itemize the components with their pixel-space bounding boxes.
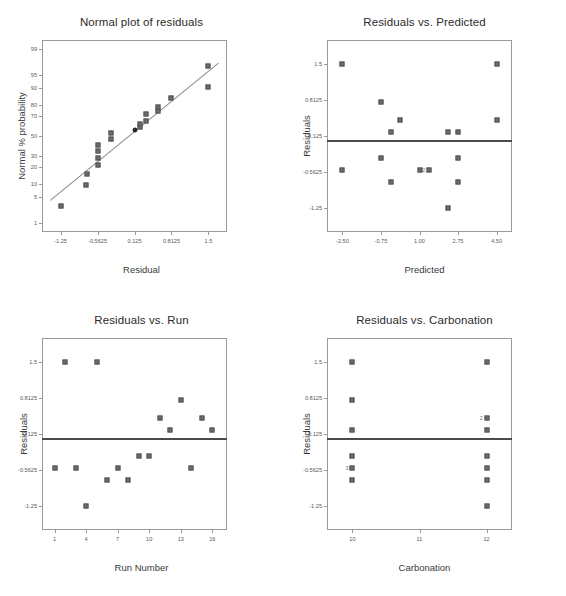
y-tick-label: 99 <box>12 46 37 52</box>
y-tick-label: -0.5625 <box>12 467 37 473</box>
x-tickmark <box>458 232 459 235</box>
data-point <box>63 360 68 365</box>
y-tick-label: 1.5 <box>297 359 322 365</box>
data-point <box>456 155 461 160</box>
y-tickmark <box>39 75 42 76</box>
y-axis-title-residuals-vs-run: Residuals <box>18 413 29 455</box>
x-tick-label: 0.125 <box>128 238 142 244</box>
y-tickmark <box>39 223 42 224</box>
y-tickmark <box>324 100 327 101</box>
data-point <box>484 477 489 482</box>
data-point <box>340 168 345 173</box>
data-point <box>95 142 100 147</box>
x-tick-label: 12 <box>483 536 489 542</box>
data-point <box>126 477 131 482</box>
chart-title-residuals-vs-run: Residuals vs. Run <box>0 314 283 326</box>
data-point <box>189 466 194 471</box>
y-tickmark <box>39 470 42 471</box>
y-tick-label: 1 <box>12 220 37 226</box>
data-point <box>136 453 141 458</box>
x-tick-label: 1 <box>53 536 56 542</box>
x-tickmark <box>212 530 213 533</box>
x-tick-label: 1.00 <box>414 238 425 244</box>
chart-panel-residuals-vs-predicted: Residuals vs. Predicted-2.50-0.751.002.7… <box>283 0 566 298</box>
data-point <box>199 415 204 420</box>
x-tickmark <box>497 232 498 235</box>
data-point <box>484 503 489 508</box>
data-point <box>178 398 183 403</box>
x-tickmark <box>420 232 421 235</box>
x-axis-title-residuals-vs-carbonation: Carbonation <box>283 562 566 573</box>
data-point <box>85 171 90 176</box>
y-tickmark <box>39 116 42 117</box>
x-tick-label: -0.5625 <box>88 238 107 244</box>
x-tick-label: -1.25 <box>54 238 67 244</box>
data-point <box>95 162 100 167</box>
data-point <box>105 477 110 482</box>
data-point <box>169 96 174 101</box>
data-point <box>137 122 142 127</box>
chart-title-residuals-vs-predicted: Residuals vs. Predicted <box>283 16 566 28</box>
y-tick-label: 10 <box>12 181 37 187</box>
data-point <box>350 477 355 482</box>
y-tickmark <box>324 398 327 399</box>
x-tick-label: 10 <box>146 536 152 542</box>
data-point <box>484 428 489 433</box>
x-tick-label: -2.50 <box>336 238 349 244</box>
data-point <box>84 503 89 508</box>
x-tickmark <box>86 530 87 533</box>
x-axis-title-normal-plot: Residual <box>0 264 283 275</box>
data-point <box>144 119 149 124</box>
y-tick-label: -1.25 <box>297 205 322 211</box>
y-axis-title-normal-plot: Normal % probability <box>16 92 27 180</box>
x-axis-title-residuals-vs-run: Run Number <box>0 562 283 573</box>
data-point <box>484 466 489 471</box>
data-point <box>168 428 173 433</box>
x-axis-title-residuals-vs-predicted: Predicted <box>283 264 566 275</box>
data-point <box>388 130 393 135</box>
x-tickmark <box>208 232 209 235</box>
data-point <box>427 168 432 173</box>
data-point <box>94 360 99 365</box>
data-point <box>378 100 383 105</box>
x-tickmark <box>487 530 488 533</box>
x-tick-label: 0.8125 <box>163 238 180 244</box>
y-tickmark <box>39 184 42 185</box>
plot-area-normal-plot <box>42 40 227 232</box>
y-tickmark <box>39 156 42 157</box>
x-tickmark <box>381 232 382 235</box>
data-point <box>350 428 355 433</box>
x-tickmark <box>342 232 343 235</box>
data-point <box>157 415 162 420</box>
data-point <box>95 148 100 153</box>
data-point <box>109 131 114 136</box>
residual-diagnostics-panel-grid: Normal plot of residuals-1.25-0.56250.12… <box>0 0 566 596</box>
y-tickmark <box>39 167 42 168</box>
y-tickmark <box>39 434 42 435</box>
data-point <box>206 84 211 89</box>
data-point <box>494 117 499 122</box>
x-tick-label: -0.75 <box>375 238 388 244</box>
data-point <box>494 62 499 67</box>
y-tick-label: -1.25 <box>297 503 322 509</box>
x-tick-label: 11 <box>417 536 423 542</box>
y-tick-label: 0.8125 <box>297 395 322 401</box>
x-tickmark <box>352 530 353 533</box>
data-point <box>456 179 461 184</box>
x-tick-label: 2.75 <box>453 238 464 244</box>
data-point <box>58 203 63 208</box>
x-tick-label: 1.5 <box>205 238 213 244</box>
data-point <box>378 155 383 160</box>
x-tick-label: 10 <box>349 536 355 542</box>
data-point <box>210 428 215 433</box>
y-tickmark <box>324 506 327 507</box>
data-point <box>109 136 114 141</box>
zero-reference-line <box>327 140 512 141</box>
data-point <box>350 466 355 471</box>
data-point <box>417 168 422 173</box>
data-point <box>446 130 451 135</box>
y-tick-label: -1.25 <box>12 503 37 509</box>
plot-area-residuals-vs-run <box>42 338 227 530</box>
overlap-count-label: 3 <box>346 465 350 471</box>
data-point <box>52 466 57 471</box>
